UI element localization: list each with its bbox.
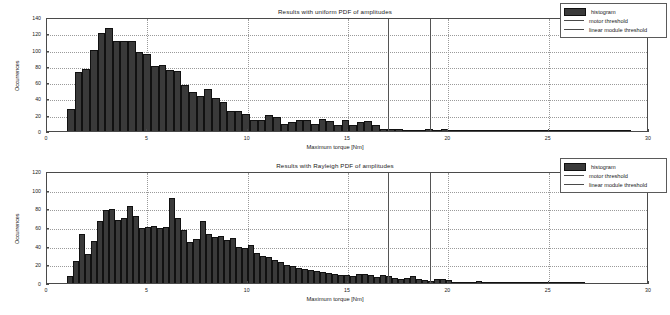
histogram-bar xyxy=(502,130,510,131)
histogram-bar xyxy=(98,33,106,131)
chart-panel-uniform: Results with uniform PDF of amplitudes O… xyxy=(0,0,670,155)
histogram-bar xyxy=(395,129,403,131)
gridline-vertical xyxy=(348,19,349,131)
histogram-bar xyxy=(448,130,456,131)
x-axis-tick-label: 5 xyxy=(136,135,156,141)
histogram-bar xyxy=(486,130,494,131)
histogram-bar xyxy=(296,120,304,131)
x-axis-tick-mark xyxy=(247,281,248,284)
histogram-bar xyxy=(181,85,189,131)
y-axis-tick-mark xyxy=(46,34,49,35)
gridline-vertical xyxy=(549,19,550,131)
histogram-bar xyxy=(410,130,418,131)
threshold-line-linear-module-threshold xyxy=(430,19,431,131)
y-axis-tick-mark xyxy=(46,18,49,19)
histogram-bar xyxy=(494,130,502,131)
legend-item-histogram[interactable]: histogram xyxy=(564,162,662,171)
histogram-bar xyxy=(212,98,220,131)
y-axis-tick-mark xyxy=(46,51,49,52)
legend-item-motor-threshold[interactable]: motor threshold xyxy=(564,16,662,25)
legend-label-motor-threshold: motor threshold xyxy=(589,173,628,179)
legend-label-linear-module-threshold: linear module threshold xyxy=(589,27,647,33)
x-axis-tick-label: 15 xyxy=(337,135,357,141)
histogram-bar xyxy=(143,54,151,131)
histogram-bar xyxy=(349,125,357,132)
figure-canvas: Results with uniform PDF of amplitudes O… xyxy=(0,0,670,315)
plot-area-rayleigh[interactable] xyxy=(46,172,648,284)
x-axis-tick-mark xyxy=(548,281,549,284)
threshold-line-motor-threshold xyxy=(388,19,389,131)
x-axis-tick-label: 10 xyxy=(237,135,257,141)
y-axis-tick-label: 20 xyxy=(20,262,41,268)
histogram-bar xyxy=(174,71,182,131)
x-axis-tick-label: 15 xyxy=(337,287,357,293)
motor-threshold-swatch-icon xyxy=(564,175,584,176)
histogram-bar xyxy=(342,120,350,131)
y-axis-tick-label: 120 xyxy=(20,169,41,175)
histogram-bar xyxy=(105,28,113,131)
legend-rayleigh[interactable]: histogram motor threshold linear module … xyxy=(560,158,667,193)
histogram-bar xyxy=(159,65,167,131)
histogram-bar xyxy=(82,69,90,131)
gridline-vertical xyxy=(448,173,449,283)
x-axis-tick-label: 30 xyxy=(638,135,658,141)
x-axis-tick-mark xyxy=(548,129,549,132)
y-axis-tick-mark xyxy=(46,228,49,229)
legend-item-motor-threshold[interactable]: motor threshold xyxy=(564,171,662,180)
histogram-bar xyxy=(555,130,563,131)
legend-item-linear-module-threshold[interactable]: linear module threshold xyxy=(564,25,662,34)
y-axis-tick-mark xyxy=(46,191,49,192)
legend-label-histogram: histogram xyxy=(591,9,616,15)
x-axis-tick-mark xyxy=(347,129,348,132)
y-axis-tick-label: 120 xyxy=(20,31,41,37)
histogram-bar xyxy=(303,120,311,131)
histogram-bar xyxy=(235,111,243,131)
legend-uniform[interactable]: histogram motor threshold linear module … xyxy=(560,3,667,38)
chart-panel-rayleigh: Results with Rayleigh PDF of amplitudes … xyxy=(0,155,670,315)
histogram-bar xyxy=(364,121,372,131)
y-axis-tick-label: 60 xyxy=(20,225,41,231)
histogram-bar xyxy=(403,130,411,131)
histogram-bar xyxy=(204,89,212,131)
histogram-bar xyxy=(113,41,121,131)
histogram-bar xyxy=(357,122,365,131)
y-axis-tick-mark xyxy=(46,83,49,84)
histogram-bar xyxy=(509,130,517,131)
histogram-bar xyxy=(479,130,487,131)
x-axis-label-rayleigh: Maximum torque [Nm] xyxy=(0,296,670,302)
x-axis-tick-mark xyxy=(46,129,47,132)
y-axis-tick-mark xyxy=(46,116,49,117)
histogram-bar xyxy=(288,122,296,131)
x-axis-tick-label: 0 xyxy=(36,135,56,141)
gridline-horizontal xyxy=(47,210,647,211)
legend-item-histogram[interactable]: histogram xyxy=(564,7,662,16)
histogram-bar xyxy=(532,130,540,131)
histogram-bar xyxy=(250,120,258,131)
plot-area-uniform[interactable] xyxy=(46,18,648,132)
gridline-horizontal xyxy=(47,192,647,193)
legend-item-linear-module-threshold[interactable]: linear module threshold xyxy=(564,180,662,189)
y-axis-tick-mark xyxy=(46,132,49,133)
threshold-line-linear-module-threshold xyxy=(430,173,431,283)
histogram-bar xyxy=(334,125,342,131)
y-axis-tick-label: 140 xyxy=(20,15,41,21)
x-axis-tick-label: 5 xyxy=(136,287,156,293)
histogram-swatch-icon xyxy=(564,163,586,171)
gridline-vertical xyxy=(549,173,550,283)
histogram-bar xyxy=(601,130,609,131)
x-axis-tick-label: 20 xyxy=(437,287,457,293)
histogram-bar xyxy=(525,130,533,131)
x-axis-tick-mark xyxy=(447,129,448,132)
x-axis-tick-mark xyxy=(648,129,649,132)
histogram-bar xyxy=(220,102,228,131)
x-axis-tick-mark xyxy=(146,129,147,132)
x-axis-label-uniform: Maximum torque [Nm] xyxy=(0,144,670,150)
histogram-bar xyxy=(319,119,327,131)
histogram-bar xyxy=(593,130,601,131)
y-axis-tick-label: 80 xyxy=(20,206,41,212)
x-axis-tick-label: 20 xyxy=(437,135,457,141)
histogram-swatch-icon xyxy=(564,8,586,16)
histogram-bar xyxy=(380,129,388,131)
histogram-bar xyxy=(281,124,289,131)
histogram-bar xyxy=(624,130,632,131)
